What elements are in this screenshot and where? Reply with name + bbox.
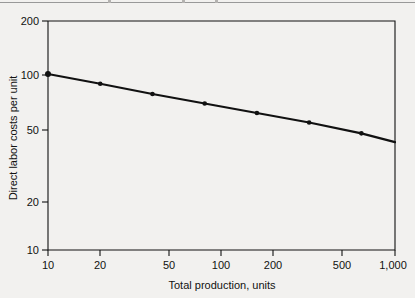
y-tick-labels: 200 100 50 20 10 (21, 15, 39, 256)
x-axis-ticks (48, 250, 395, 256)
data-point-marker (359, 131, 364, 136)
plot-frame (48, 21, 395, 250)
learning-curve-chart: 200 100 50 20 10 10 20 50 100 200 500 1,… (0, 0, 415, 298)
y-tick-label: 200 (21, 15, 39, 27)
data-series-layer (45, 71, 395, 142)
y-axis-title: Direct labor costs per unit (7, 76, 19, 201)
y-axis-ticks (42, 21, 48, 250)
x-tick-label: 50 (163, 259, 175, 271)
figure-container: 200 100 50 20 10 10 20 50 100 200 500 1,… (0, 0, 415, 298)
x-tick-label: 10 (42, 259, 54, 271)
data-point-marker (45, 71, 51, 77)
x-tick-label: 100 (212, 259, 230, 271)
y-tick-label: 10 (27, 244, 39, 256)
y-tick-label: 100 (21, 69, 39, 81)
x-tick-label: 1,000 (379, 259, 407, 271)
data-point-marker (202, 101, 207, 106)
data-point-marker (150, 92, 155, 97)
data-point-marker (255, 111, 260, 116)
x-tick-labels: 10 20 50 100 200 500 1,000 (42, 259, 407, 271)
data-point-marker (307, 120, 312, 125)
y-tick-label: 50 (27, 124, 39, 136)
y-tick-label: 20 (27, 196, 39, 208)
data-point-marker (98, 81, 103, 86)
x-axis-title: Total production, units (168, 279, 276, 291)
x-tick-label: 200 (264, 259, 282, 271)
x-tick-label: 500 (333, 259, 351, 271)
x-tick-label: 20 (94, 259, 106, 271)
